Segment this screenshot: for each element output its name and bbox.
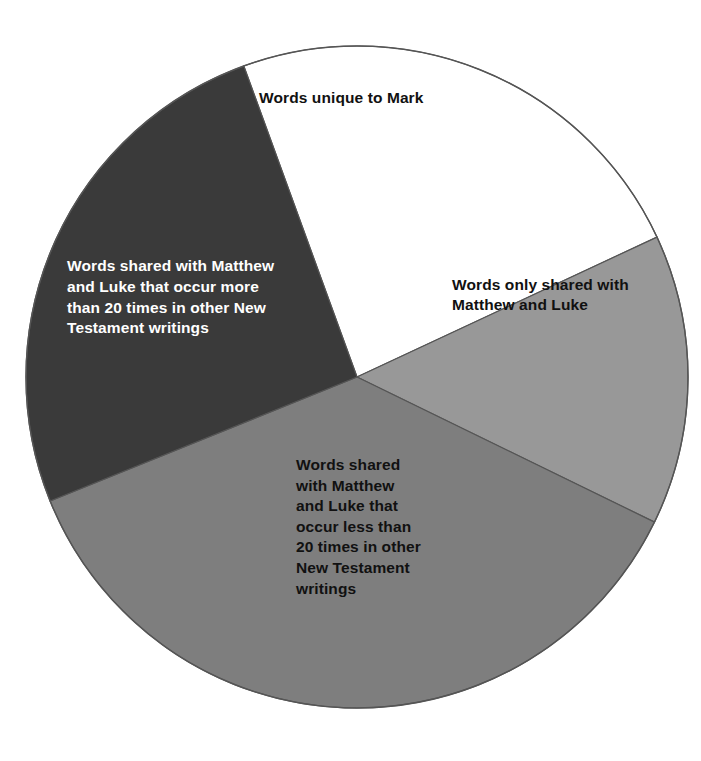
pie-chart: Words unique to Mark Words only shared w… [0,0,701,761]
pie-chart-canvas [0,0,701,761]
pie-slice-group [26,46,688,708]
slice-label-words-only-shared-matthew-luke: Words only shared with Matthew and Luke [452,275,682,315]
slice-label-words-unique-to-mark: Words unique to Mark [259,88,539,108]
slice-label-words-shared-more-than-20: Words shared with Matthew and Luke that … [67,256,327,339]
slice-label-words-shared-less-than-20: Words shared with Matthew and Luke that … [296,455,516,599]
